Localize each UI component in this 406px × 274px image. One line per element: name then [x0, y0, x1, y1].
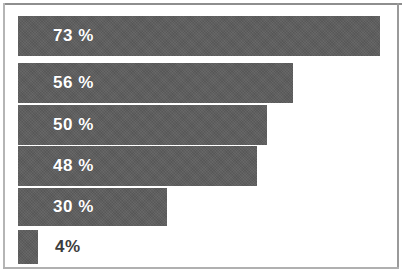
- bar-value-label: 50 %: [53, 105, 94, 145]
- bar-value-label: 73 %: [53, 16, 94, 56]
- bar-value-label: 4%: [55, 230, 81, 264]
- bar-chart: 73 % 56 % 50 % 48 % 30 % 4%: [0, 0, 406, 274]
- bar: [18, 230, 38, 264]
- plot-area: 73 % 56 % 50 % 48 % 30 % 4%: [0, 0, 406, 274]
- bar-value-label: 56 %: [53, 63, 94, 103]
- bar-value-label: 30 %: [53, 188, 94, 226]
- bar-value-label: 48 %: [53, 146, 94, 186]
